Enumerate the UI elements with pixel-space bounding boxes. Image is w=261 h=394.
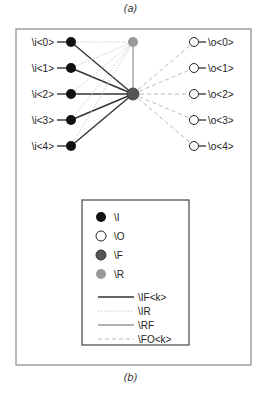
legend-input-node-label: \I — [114, 212, 120, 223]
r-node — [128, 37, 138, 47]
legend-f-node-label: \F — [114, 250, 123, 261]
edge-if — [71, 94, 133, 120]
input-node — [66, 115, 76, 125]
input-node — [66, 141, 76, 151]
edge-if — [71, 94, 133, 146]
graph-diagram: \i<0>\i<1>\i<2>\i<3>\i<4>\o<0>\o<1>\o<2>… — [0, 0, 261, 394]
edge-fo — [133, 42, 194, 94]
edge-fo — [133, 68, 194, 94]
output-label: \o<3> — [208, 115, 234, 126]
output-label: \o<0> — [208, 37, 234, 48]
output-node — [190, 38, 199, 47]
legend-r-node-label: \R — [114, 269, 124, 280]
legend-edge-ir-label: \IR — [138, 306, 151, 317]
input-label: \i<1> — [32, 63, 54, 74]
legend-r-node-swatch — [96, 269, 106, 279]
legend-output-node-swatch — [96, 231, 106, 241]
legend-edge-fo-label: \FO<k> — [138, 334, 172, 345]
input-label: \i<3> — [32, 115, 54, 126]
input-node — [66, 89, 76, 99]
output-node — [190, 116, 199, 125]
output-node — [190, 142, 199, 151]
output-node — [190, 64, 199, 73]
edge-ir — [71, 42, 133, 68]
input-label: \i<4> — [32, 141, 54, 152]
output-label: \o<1> — [208, 63, 234, 74]
input-node — [66, 63, 76, 73]
input-node — [66, 37, 76, 47]
output-node — [190, 90, 199, 99]
output-label: \o<2> — [208, 89, 234, 100]
legend-edge-if-label: \IF<k> — [138, 292, 167, 303]
input-label: \i<2> — [32, 89, 54, 100]
edge-if — [71, 68, 133, 94]
legend-input-node-swatch — [96, 212, 106, 222]
caption-b: (b) — [0, 372, 261, 383]
output-label: \o<4> — [208, 141, 234, 152]
edge-fo — [133, 94, 194, 146]
legend-f-node-swatch — [96, 250, 106, 260]
legend-output-node-label: \O — [114, 231, 125, 242]
input-label: \i<0> — [32, 37, 54, 48]
legend-edge-rf-label: \RF — [138, 320, 154, 331]
edge-fo — [133, 94, 194, 120]
f-node — [127, 88, 139, 100]
